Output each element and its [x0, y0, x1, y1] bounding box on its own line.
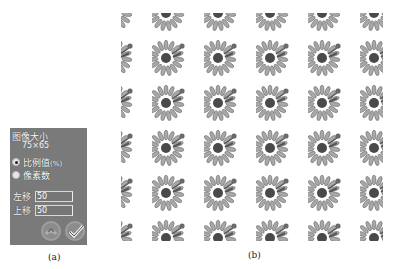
top-offset-input[interactable]: 50: [35, 205, 73, 216]
radio-pixels[interactable]: 像素数: [12, 169, 50, 181]
caption-b: (b): [248, 250, 261, 260]
sunflower-icon: [308, 175, 344, 211]
offset-settings-panel: 图像大小 75×65 比例值(%) 像素数 左移 50 上移 50: [10, 128, 87, 245]
top-offset-label: 上移: [13, 204, 35, 217]
left-offset-label: 左移: [13, 190, 35, 203]
radio-pixels-label: 像素数: [23, 169, 50, 182]
sunflower-icon: [152, 85, 188, 121]
radio-percentage-suffix: (%): [50, 160, 62, 168]
confirm-button[interactable]: [65, 221, 85, 241]
sunflower-icon: [204, 130, 240, 166]
sunflower-icon: [152, 175, 188, 211]
sunflower-icon: [204, 40, 240, 76]
radio-button-unchecked[interactable]: [12, 171, 20, 179]
sunflower-icon: [121, 220, 136, 241]
sunflower-icon: [152, 13, 188, 31]
image-size-value: 75×65: [22, 141, 49, 150]
radio-percentage[interactable]: 比例值(%): [12, 156, 62, 168]
sunflower-icon: [121, 175, 136, 211]
sunflower-icon: [308, 130, 344, 166]
top-offset-row: 上移 50: [13, 204, 73, 217]
undo-button[interactable]: [41, 221, 61, 241]
sunflower-icon: [121, 40, 136, 76]
sunflower-icon: [256, 220, 292, 241]
checkmark-icon: [65, 221, 85, 241]
sunflower-icon: [308, 85, 344, 121]
sunflower-icon: [256, 130, 292, 166]
left-offset-row: 左移 50: [13, 190, 73, 203]
sunflower-icon: [360, 220, 383, 241]
sunflower-icon: [360, 40, 383, 76]
sunflower-icon: [121, 130, 136, 166]
undo-icon: [41, 221, 61, 241]
sunflower-icon: [204, 13, 240, 31]
sunflower-icon: [204, 220, 240, 241]
caption-a: (a): [48, 252, 60, 262]
sunflower-icon: [256, 85, 292, 121]
sunflower-icon: [360, 13, 383, 31]
sunflower-icon: [308, 40, 344, 76]
sunflower-icon: [121, 85, 136, 121]
sunflower-icon: [121, 13, 136, 31]
sunflower-icon: [308, 220, 344, 241]
sunflower-icon: [204, 175, 240, 211]
radio-percentage-label: 比例值: [23, 158, 50, 168]
tiled-image-preview: [121, 13, 383, 241]
sunflower-icon: [204, 85, 240, 121]
sunflower-icon: [152, 220, 188, 241]
sunflower-icon: [256, 13, 292, 31]
sunflower-icon: [360, 130, 383, 166]
sunflower-icon: [152, 130, 188, 166]
sunflower-icon: [256, 175, 292, 211]
sunflower-icon: [360, 85, 383, 121]
radio-button-checked[interactable]: [12, 158, 20, 166]
sunflower-icon: [152, 40, 188, 76]
sunflower-icon: [256, 40, 292, 76]
left-offset-input[interactable]: 50: [35, 191, 73, 202]
sunflower-icon: [308, 13, 344, 31]
sunflower-icon: [360, 175, 383, 211]
